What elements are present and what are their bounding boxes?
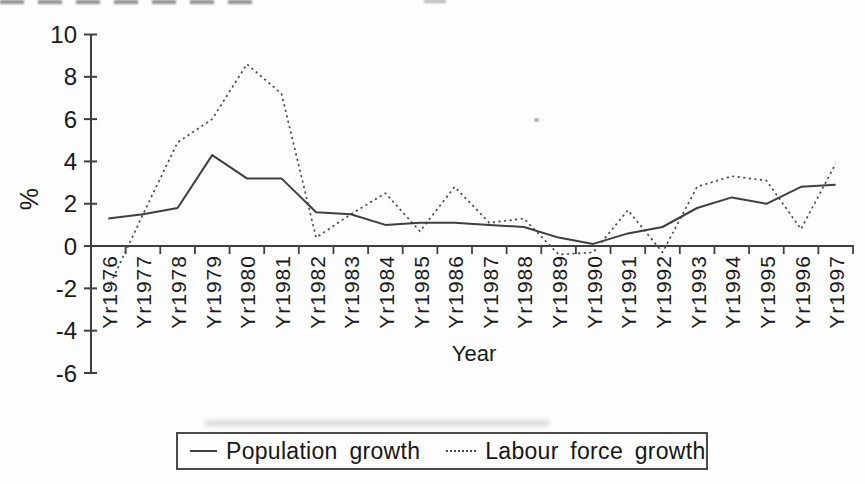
legend-label-population-growth: Population growth [226, 438, 420, 465]
population-growth-line [108, 155, 835, 244]
x-category-label: Yr1994 [721, 255, 744, 329]
y-axis-tick-label: -4 [56, 317, 77, 344]
x-category-label: Yr1995 [756, 255, 779, 329]
x-category-label: Yr1982 [306, 255, 329, 329]
x-category-label: Yr1983 [340, 255, 363, 329]
x-category-label: Yr1977 [132, 255, 155, 329]
x-category-label: Yr1988 [513, 255, 536, 329]
x-category-label: Yr1987 [479, 255, 502, 329]
y-axis-tick-label: 10 [50, 21, 77, 48]
y-axis-title: % [15, 188, 43, 210]
x-axis-title: Year [452, 341, 496, 366]
line-chart-canvas: 1086420-2-4-6Yr1976Yr1977Yr1978Yr1979Yr1… [0, 0, 865, 430]
y-axis-tick-label: 2 [64, 190, 77, 217]
y-axis-tick-label: 6 [64, 106, 77, 133]
y-axis-tick-label: 0 [64, 233, 77, 260]
x-category-label: Yr1979 [202, 255, 225, 329]
legend: Population growth Labour force growth [176, 432, 708, 470]
x-category-label: Yr1976 [98, 255, 121, 329]
labour-force-growth-line [108, 64, 835, 288]
x-category-label: Yr1989 [548, 255, 571, 329]
labour-force-growth-line-swatch [446, 450, 476, 452]
x-category-label: Yr1996 [791, 255, 814, 329]
chart-figure: 1086420-2-4-6Yr1976Yr1977Yr1978Yr1979Yr1… [0, 0, 865, 484]
x-category-label: Yr1993 [687, 255, 710, 329]
x-category-label: Yr1985 [410, 255, 433, 329]
x-category-label: Yr1980 [236, 255, 259, 329]
x-category-label: Yr1986 [444, 255, 467, 329]
y-axis-tick-label: 4 [64, 148, 77, 175]
y-axis-tick-label: -2 [56, 275, 77, 302]
x-category-label: Yr1992 [652, 255, 675, 329]
x-category-label: Yr1978 [167, 255, 190, 329]
x-category-label: Yr1997 [825, 255, 848, 329]
x-category-label: Yr1991 [617, 255, 640, 329]
legend-label-labour-force-growth: Labour force growth [485, 438, 705, 465]
population-growth-line-swatch [190, 450, 217, 452]
x-category-label: Yr1981 [271, 255, 294, 329]
y-axis-tick-label: 8 [64, 63, 77, 90]
x-category-label: Yr1990 [583, 255, 606, 329]
x-category-label: Yr1984 [375, 255, 398, 329]
y-axis-tick-label: -6 [56, 360, 77, 387]
